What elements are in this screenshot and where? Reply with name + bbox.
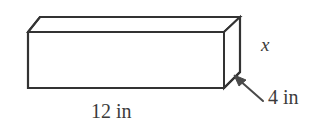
- depth-arrow-icon: [234, 75, 263, 101]
- rectangular-prism-drawing: [0, 0, 320, 140]
- prism-top-face: [28, 17, 240, 32]
- length-label: 12 in: [91, 101, 132, 121]
- depth-label: 4 in: [268, 87, 299, 107]
- height-label: x: [261, 35, 269, 54]
- prism-front-face: [28, 32, 224, 88]
- figure-container: 12 in 4 in x: [0, 0, 320, 140]
